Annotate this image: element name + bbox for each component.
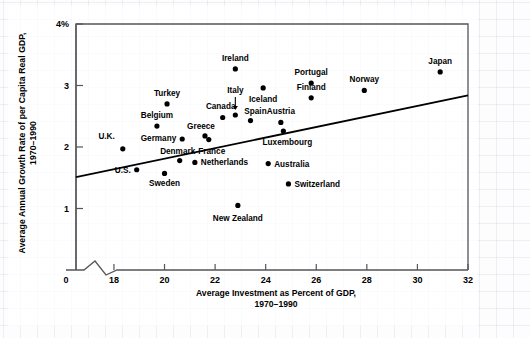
data-point — [134, 167, 139, 172]
data-point-label: Japan — [428, 57, 452, 66]
data-point — [235, 203, 240, 208]
data-point — [286, 181, 291, 186]
data-point-label: Austria — [267, 107, 296, 116]
y-tick-label: 1 — [64, 204, 69, 214]
data-point — [309, 80, 314, 85]
data-point-label: New Zealand — [213, 214, 263, 223]
figure-root: U.K.U.S.BelgiumTurkeySwedenGermanyDenmar… — [0, 0, 530, 338]
y-axis-title-line2: 1970–1990 — [28, 121, 38, 165]
data-point — [261, 85, 266, 90]
data-point-label: Denmark — [160, 147, 195, 156]
data-point — [164, 101, 169, 106]
x-axis-title-line2: 1970–1990 — [254, 299, 297, 309]
data-point — [278, 120, 283, 125]
y-tick-label: 2 — [64, 142, 69, 152]
data-point — [177, 158, 182, 163]
tick-labels: 018202224262830321234% — [56, 19, 473, 285]
data-point — [438, 69, 443, 74]
data-point-label: Portugal — [295, 68, 328, 77]
data-point-label: Ireland — [222, 54, 249, 63]
data-point-label: Netherlands — [201, 158, 249, 167]
data-points: U.K.U.S.BelgiumTurkeySwedenGermanyDenmar… — [98, 54, 452, 224]
data-point — [281, 128, 286, 133]
data-point-label: Italy — [227, 86, 244, 95]
x-tick-label: 22 — [210, 275, 220, 285]
data-point-label: France — [198, 147, 225, 156]
x-tick-label: 30 — [412, 275, 422, 285]
data-point-label: Germany — [141, 134, 177, 143]
data-point — [202, 133, 207, 138]
data-point — [206, 137, 211, 142]
x-tick-label: 26 — [311, 275, 321, 285]
data-point-label: Spain — [244, 107, 266, 116]
x-axis-title-line1: Average Investment as Percent of GDP, — [196, 288, 356, 298]
x-tick-label: 18 — [109, 275, 119, 285]
x-tick-label: 24 — [261, 275, 271, 285]
x-tick-label: 20 — [160, 275, 170, 285]
y-axis-title: Average Annual Growth Rate of per Capita… — [17, 23, 39, 263]
y-tick-label: 4% — [56, 19, 69, 29]
data-point-label: Canada — [206, 102, 236, 111]
x-tick-label: 0 — [63, 275, 68, 285]
data-point-label: Norway — [350, 75, 380, 84]
data-point-label: Switzerland — [294, 180, 340, 189]
data-point-label: Turkey — [154, 89, 181, 98]
data-point — [362, 88, 367, 93]
data-point-label: Greece — [187, 122, 215, 131]
data-point — [120, 146, 125, 151]
data-point — [162, 171, 167, 176]
data-point — [233, 66, 238, 71]
data-point — [220, 115, 225, 120]
data-point — [233, 112, 238, 117]
axes — [66, 24, 468, 275]
data-point — [192, 160, 197, 165]
x-axis-title: Average Investment as Percent of GDP, 19… — [116, 288, 436, 310]
x-tick-label: 32 — [463, 275, 473, 285]
y-axis-title-line1: Average Annual Growth Rate of per Capita… — [17, 33, 27, 254]
data-point — [154, 123, 159, 128]
y-tick-label: 3 — [64, 81, 69, 91]
scatter-chart: U.K.U.S.BelgiumTurkeySwedenGermanyDenmar… — [0, 0, 530, 338]
data-point-label: Luxembourg — [263, 138, 313, 147]
data-point-label: Sweden — [149, 179, 180, 188]
data-point — [309, 95, 314, 100]
data-point-label: Belgium — [141, 111, 173, 120]
data-point-label: Australia — [274, 160, 309, 169]
data-point-label: U.S. — [115, 166, 131, 175]
data-point-label: U.K. — [98, 132, 114, 141]
data-point — [180, 136, 185, 141]
x-tick-label: 28 — [362, 275, 372, 285]
data-point — [266, 161, 271, 166]
data-point — [248, 118, 253, 123]
data-point-label: Iceland — [249, 95, 277, 104]
